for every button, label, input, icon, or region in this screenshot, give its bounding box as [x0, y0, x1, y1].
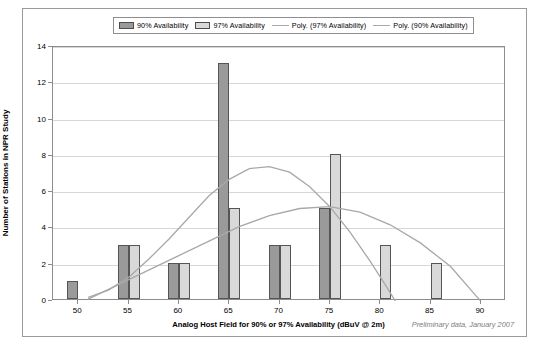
x-tick-mark: [329, 300, 330, 304]
legend-label: 97% Availability: [213, 21, 264, 30]
legend-label: Poly. (97% Availability): [292, 21, 366, 30]
x-tick-mark: [379, 300, 380, 304]
legend-item-poly-97: Poly. (97% Availability): [272, 21, 366, 30]
plot-area: [52, 46, 505, 300]
legend-label: 90% Availability: [137, 21, 188, 30]
trendline-poly-97-availability-: [88, 207, 481, 301]
y-tick-mark: [48, 119, 52, 120]
y-tick-label: 8: [42, 150, 46, 159]
x-tick-label: 80: [375, 306, 384, 315]
y-tick-label: 4: [42, 223, 46, 232]
x-tick-mark: [430, 300, 431, 304]
x-tick-label: 90: [475, 306, 484, 315]
plot-inner: [53, 47, 504, 299]
x-tick-label: 50: [73, 306, 82, 315]
y-tick-label: 14: [37, 42, 46, 51]
x-tick-label: 75: [324, 306, 333, 315]
x-tick-label: 65: [224, 306, 233, 315]
y-tick-label: 0: [42, 296, 46, 305]
legend-label: Poly. (90% Availability): [393, 21, 467, 30]
legend-item-90-availability: 90% Availability: [119, 21, 188, 30]
y-tick-label: 12: [37, 78, 46, 87]
x-tick-mark: [228, 300, 229, 304]
trendline-poly-90-availability-: [88, 167, 395, 301]
legend-item-poly-90: Poly. (90% Availability): [373, 21, 467, 30]
y-tick-mark: [48, 227, 52, 228]
x-tick-mark: [77, 300, 78, 304]
y-tick-mark: [48, 300, 52, 301]
chart-legend: 90% Availability 97% Availability Poly. …: [113, 17, 474, 34]
line-swatch-icon: [272, 25, 289, 26]
y-tick-label: 10: [37, 114, 46, 123]
bar-swatch-light-icon: [195, 22, 210, 29]
chart-annotation: Preliminary data, January 2007: [412, 320, 514, 329]
y-tick-mark: [48, 46, 52, 47]
y-tick-mark: [48, 191, 52, 192]
x-tick-label: 55: [123, 306, 132, 315]
x-tick-mark: [178, 300, 179, 304]
bar-swatch-dark-icon: [119, 22, 134, 29]
y-tick-label: 2: [42, 259, 46, 268]
y-tick-mark: [48, 82, 52, 83]
y-tick-mark: [48, 264, 52, 265]
line-swatch-icon: [373, 25, 390, 26]
x-tick-mark: [279, 300, 280, 304]
x-tick-mark: [480, 300, 481, 304]
chart-container: 90% Availability 97% Availability Poly. …: [0, 0, 544, 345]
x-tick-label: 70: [274, 306, 283, 315]
y-tick-mark: [48, 155, 52, 156]
y-tick-label: 6: [42, 187, 46, 196]
x-tick-label: 85: [425, 306, 434, 315]
x-tick-label: 60: [173, 306, 182, 315]
legend-item-97-availability: 97% Availability: [195, 21, 264, 30]
y-axis-title: Number of Stations in NPR Study: [0, 46, 12, 300]
x-tick-mark: [128, 300, 129, 304]
trendline-layer: [53, 47, 506, 301]
